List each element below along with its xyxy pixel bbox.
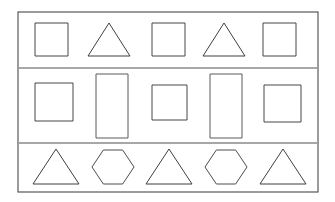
square: [264, 85, 301, 122]
triangle: [260, 149, 306, 184]
tall-rectangle: [96, 74, 128, 138]
square: [35, 83, 73, 121]
square: [263, 23, 296, 56]
figure-canvas: Geometric shapes arranged in a bordered …: [0, 0, 335, 202]
tall-rectangle: [210, 74, 242, 138]
square: [152, 85, 187, 120]
row-3-shapes: [33, 149, 306, 184]
hexagon: [92, 150, 134, 184]
hexagon: [205, 150, 247, 184]
triangle: [146, 149, 192, 184]
row-1-shapes: [35, 23, 296, 56]
row-2-shapes: [35, 74, 301, 138]
shapes-grid-diagram: [0, 0, 335, 202]
square: [35, 23, 68, 56]
triangle: [33, 149, 79, 184]
square: [152, 23, 185, 56]
triangle: [203, 23, 245, 56]
triangle: [88, 23, 130, 56]
